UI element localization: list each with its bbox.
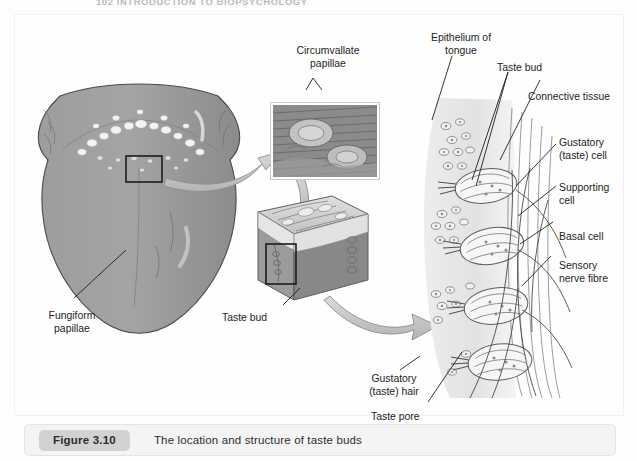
arrow-tongue-to-inset	[164, 152, 280, 191]
block-magnify-marker	[266, 244, 296, 284]
label-supporting-cell: Supporting cell	[559, 182, 609, 207]
label-connective-tissue: Connective tissue	[528, 91, 610, 104]
label-sensory-nerve-fibre: Sensory nerve fibre	[559, 260, 608, 285]
label-epithelium-of-tongue: Epithelium of tongue	[413, 32, 509, 57]
taste-bud-detail	[424, 98, 572, 398]
figure-caption-text: The location and structure of taste buds	[154, 434, 362, 446]
tongue-magnify-marker	[126, 156, 162, 182]
label-taste-pore: Taste pore	[371, 411, 420, 424]
tongue-illustration	[38, 84, 239, 333]
figure-page: 102 INTRODUCTION TO BIOPSYCHOLOGY	[0, 0, 637, 461]
running-head: 102 INTRODUCTION TO BIOPSYCHOLOGY	[96, 0, 416, 6]
label-taste-bud-detail: Taste bud	[497, 62, 542, 75]
circumvallate-inset-photo	[271, 103, 379, 179]
label-gustatory-taste-hair: Gustatory (taste) hair	[344, 373, 444, 398]
tongue-tissue-block	[258, 196, 368, 300]
figure-caption-bar: Figure 3.10 The location and structure o…	[24, 424, 616, 456]
label-fungiform-papillae: Fungiform papillae	[20, 310, 124, 335]
figure-panel: Circumvallate papillae Fungiform papilla…	[14, 14, 624, 416]
figure-number-badge: Figure 3.10	[39, 430, 130, 451]
label-taste-bud-block: Taste bud	[222, 312, 267, 325]
label-basal-cell: Basal cell	[559, 231, 603, 244]
arrow-block-to-detail	[324, 296, 438, 340]
label-gustatory-taste-cell: Gustatory (taste) cell	[559, 137, 607, 162]
label-circumvallate-papillae: Circumvallate papillae	[270, 45, 386, 70]
